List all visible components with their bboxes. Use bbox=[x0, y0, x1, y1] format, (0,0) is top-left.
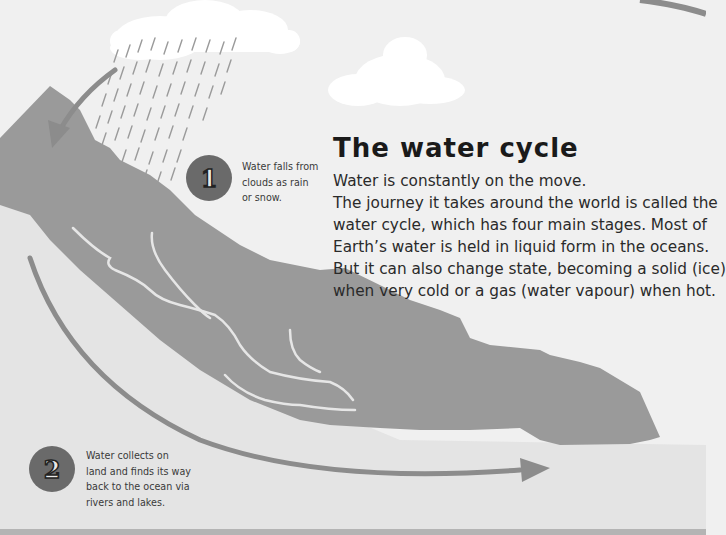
page-title: The water cycle bbox=[333, 133, 579, 163]
intro-paragraph: Water is constantly on the move. The jou… bbox=[333, 170, 713, 302]
step-2-badge: 2 bbox=[29, 446, 75, 492]
step-2-caption: Water collects on land and finds its way… bbox=[86, 448, 191, 510]
step-2-number: 2 bbox=[44, 455, 61, 484]
bottom-divider bbox=[0, 529, 706, 535]
step-1-number: 1 bbox=[201, 164, 218, 193]
step-1-caption: Water falls from clouds as rain or snow. bbox=[242, 159, 318, 206]
step-1-badge: 1 bbox=[186, 155, 232, 201]
